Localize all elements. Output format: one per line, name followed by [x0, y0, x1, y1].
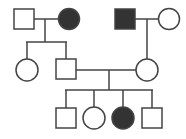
female-unaffected-III2 [83, 107, 105, 129]
female-unaffected-II1 [16, 59, 38, 81]
male-unaffected-III1 [56, 108, 76, 128]
individuals [14, 9, 180, 130]
pedigree-chart [0, 0, 186, 139]
female-affected-I2 [59, 9, 80, 30]
male-unaffected-II2 [56, 59, 76, 79]
male-unaffected-I1 [14, 9, 34, 29]
female-affected-III3 [112, 107, 134, 129]
male-unaffected-III4 [142, 108, 162, 128]
female-unaffected-I4 [159, 9, 180, 30]
female-unaffected-II3 [136, 59, 158, 81]
male-affected-I3 [115, 9, 135, 29]
